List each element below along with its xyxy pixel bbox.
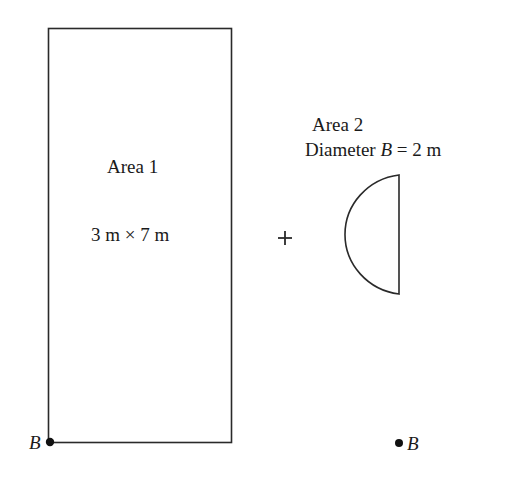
plus-sign-icon (278, 231, 292, 245)
area1-title: Area 1 (107, 157, 158, 176)
composite-area-diagram (0, 0, 510, 479)
point-b-left-label: B (29, 433, 41, 452)
diameter-variable: B (380, 139, 392, 160)
area2-semicircle (345, 175, 399, 294)
diameter-prefix: Diameter (305, 139, 380, 160)
point-b-right-dot (395, 439, 403, 447)
area2-diameter-label: Diameter B = 2 m (305, 140, 441, 159)
point-b-left-dot (46, 438, 54, 446)
area2-title: Area 2 (312, 115, 363, 134)
point-b-right-label: B (407, 434, 419, 453)
diameter-suffix: = 2 m (392, 139, 441, 160)
area1-dimensions: 3 m × 7 m (91, 225, 169, 244)
